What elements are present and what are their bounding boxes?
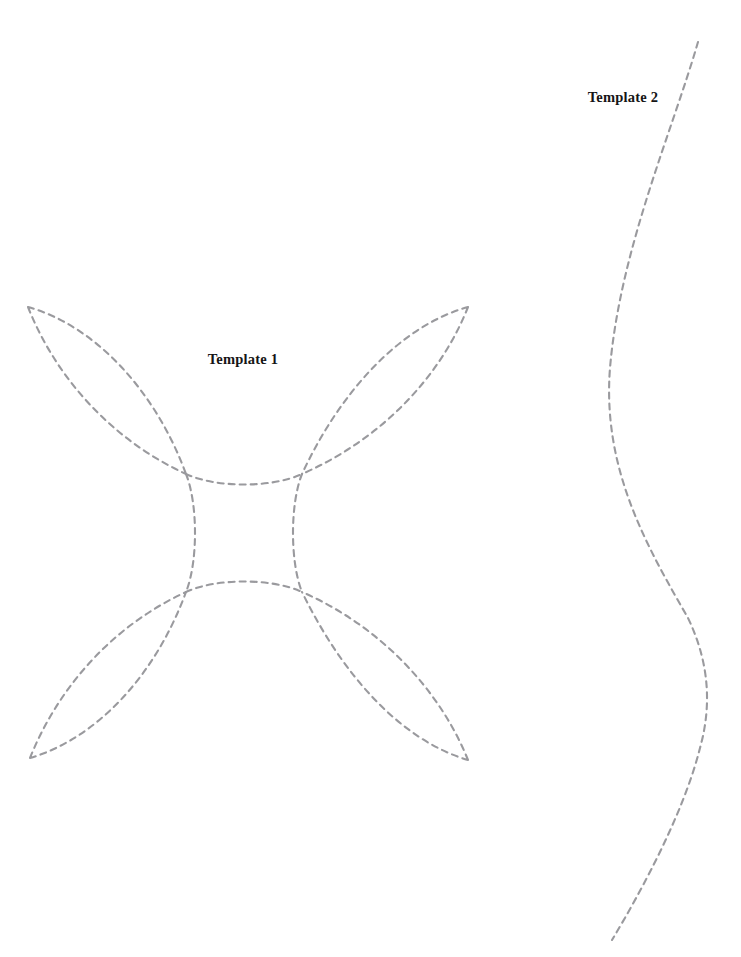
petal-top-left bbox=[28, 307, 186, 474]
petal-bottom-left bbox=[30, 592, 186, 758]
template-2-shape bbox=[609, 42, 707, 940]
template-1-shape bbox=[28, 307, 468, 760]
concave-square-right-edge bbox=[293, 474, 302, 592]
petal-bottom-right bbox=[302, 592, 468, 760]
template-1-label: Template 1 bbox=[208, 351, 278, 368]
template-drawing-canvas bbox=[0, 0, 741, 957]
template-2-label: Template 2 bbox=[588, 89, 658, 106]
s-curve-wave bbox=[609, 42, 707, 940]
concave-square-top-edge bbox=[186, 474, 302, 485]
template-page: Template 1 Template 2 bbox=[0, 0, 741, 957]
concave-square-left-edge bbox=[186, 474, 195, 592]
concave-square-bottom-edge bbox=[186, 582, 302, 593]
petal-top-right bbox=[302, 307, 468, 474]
